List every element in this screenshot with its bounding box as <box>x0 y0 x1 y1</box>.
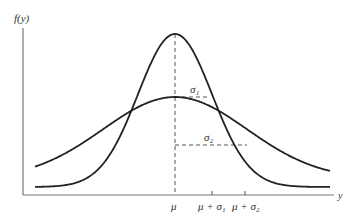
tick-label-mu-sigma1: μ + σ₁ <box>197 200 226 212</box>
sigma1-label: σ₁ <box>190 83 199 95</box>
sigma2-label: σ₂ <box>204 131 213 143</box>
tick-label-mu-sigma2: μ + σ₂ <box>231 200 260 212</box>
narrow-normal-curve <box>35 34 330 187</box>
wide-normal-curve <box>35 97 330 171</box>
normal-distributions-diagram: f(y) y σ₁ σ₂ μ μ + σ₁ μ + σ₂ <box>0 0 356 220</box>
y-axis-label: f(y) <box>14 12 30 25</box>
x-axis-label: y <box>337 190 343 201</box>
tick-label-mu: μ <box>170 200 177 212</box>
